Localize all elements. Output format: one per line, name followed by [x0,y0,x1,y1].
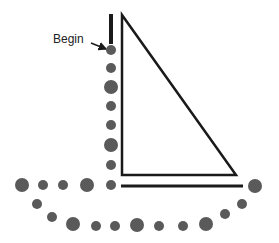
path-dot [130,218,144,232]
path-dot [237,199,247,209]
path-dot [106,180,116,190]
begin-arrow-icon [91,43,106,49]
path-dot [106,63,116,73]
path-dot [47,212,57,222]
path-dot [32,199,42,209]
path-dot [199,217,213,231]
path-dot [104,80,118,94]
path-dot [154,221,164,231]
path-dot [15,178,29,192]
path-dot [106,120,116,130]
path-dot [220,209,230,219]
sailboat-path-diagram [0,0,279,243]
path-dot [91,221,101,231]
path-dot [104,138,118,152]
path-dot [106,160,116,170]
path-dot [178,221,188,231]
path-dot [38,180,48,190]
path-dot [58,180,68,190]
path-dot [248,179,262,193]
dot-path [15,45,262,232]
path-dot [110,221,120,231]
path-dot [106,45,116,55]
sail-triangle [122,15,236,175]
path-dot [66,217,80,231]
path-dot [106,101,116,111]
path-dot [80,178,94,192]
